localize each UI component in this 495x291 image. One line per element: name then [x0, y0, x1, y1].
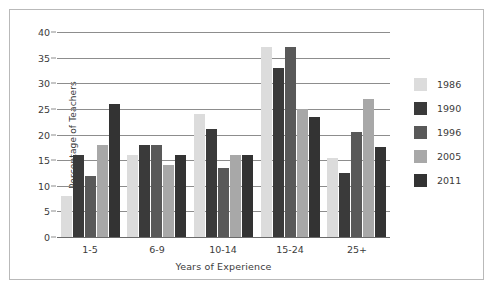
- y-tick-mark: [51, 108, 56, 109]
- y-tick-mark: [51, 134, 56, 135]
- x-tick-label: 6-9: [149, 244, 165, 255]
- x-tick-label: 15-24: [276, 244, 304, 255]
- x-tick-label: 25+: [347, 244, 367, 255]
- bar-group: [60, 32, 120, 237]
- y-tick-mark: [51, 185, 56, 186]
- bar-group: [127, 32, 187, 237]
- legend-swatch-icon: [414, 150, 427, 163]
- bar: [194, 114, 205, 237]
- x-tick-label: 10-14: [209, 244, 237, 255]
- legend-item-2011: 2011: [414, 168, 461, 192]
- y-tick-label: 35: [38, 52, 50, 63]
- bar-group: [327, 32, 387, 237]
- bar: [363, 99, 374, 237]
- y-tick-label: 30: [38, 78, 50, 89]
- bar: [273, 68, 284, 237]
- y-tick-label: 40: [38, 27, 50, 38]
- y-tick-label: 5: [44, 206, 50, 217]
- bar: [327, 158, 338, 237]
- bar: [109, 104, 120, 237]
- plot-area: Percentage of Teachers 0510152025303540 …: [57, 32, 390, 237]
- legend-swatch-icon: [414, 174, 427, 187]
- bar: [61, 196, 72, 237]
- legend-label: 1986: [437, 79, 461, 90]
- bar: [339, 173, 350, 237]
- bar: [351, 132, 362, 237]
- legend-label: 2005: [437, 151, 461, 162]
- y-tick-label: 20: [38, 129, 50, 140]
- bar-group: [260, 32, 320, 237]
- legend-swatch-icon: [414, 78, 427, 91]
- y-tick-label: 10: [38, 180, 50, 191]
- y-tick-mark: [51, 32, 56, 33]
- y-tick-label: 25: [38, 103, 50, 114]
- legend-item-1986: 1986: [414, 72, 461, 96]
- legend: 19861990199620052011: [414, 72, 461, 192]
- bar: [85, 176, 96, 238]
- legend-label: 1990: [437, 103, 461, 114]
- legend-label: 2011: [437, 175, 461, 186]
- x-tick-label: 1-5: [82, 244, 98, 255]
- bar: [151, 145, 162, 237]
- legend-label: 1996: [437, 127, 461, 138]
- bar: [139, 145, 150, 237]
- bar-group: [193, 32, 253, 237]
- legend-swatch-icon: [414, 102, 427, 115]
- bar: [175, 155, 186, 237]
- y-tick-mark: [51, 237, 56, 238]
- y-tick-mark: [51, 83, 56, 84]
- bar: [375, 147, 386, 237]
- legend-item-1996: 1996: [414, 120, 461, 144]
- bar: [309, 117, 320, 237]
- y-tick-mark: [51, 211, 56, 212]
- bar: [285, 47, 296, 237]
- axis-baseline: [57, 237, 390, 238]
- bar-groups: [57, 32, 390, 237]
- x-axis-title: Years of Experience: [175, 261, 271, 272]
- bar: [242, 155, 253, 237]
- legend-swatch-icon: [414, 126, 427, 139]
- bar: [297, 109, 308, 237]
- bar: [97, 145, 108, 237]
- y-tick-label: 15: [38, 155, 50, 166]
- bar: [230, 155, 241, 237]
- y-tick-mark: [51, 57, 56, 58]
- y-tick-label: 0: [44, 232, 50, 243]
- legend-item-1990: 1990: [414, 96, 461, 120]
- bar: [218, 168, 229, 237]
- legend-item-2005: 2005: [414, 144, 461, 168]
- bar: [206, 129, 217, 237]
- bar: [73, 155, 84, 237]
- chart-container: Percentage of Teachers 0510152025303540 …: [9, 9, 484, 280]
- bar: [261, 47, 272, 237]
- bar: [127, 155, 138, 237]
- bar: [163, 165, 174, 237]
- y-tick-mark: [51, 160, 56, 161]
